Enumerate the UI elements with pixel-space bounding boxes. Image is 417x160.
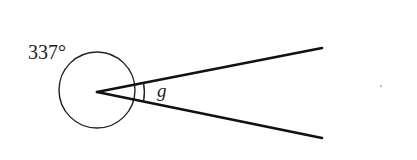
upper-ray: [97, 48, 322, 92]
unknown-angle-label: g: [157, 80, 167, 101]
lower-ray: [97, 92, 322, 138]
stray-dot: [380, 85, 382, 87]
reflex-angle-label: 337°: [28, 41, 66, 63]
reflex-angle-arc: [59, 52, 135, 128]
angle-diagram: 337° g: [0, 0, 417, 160]
small-angle-arc: [144, 83, 145, 102]
